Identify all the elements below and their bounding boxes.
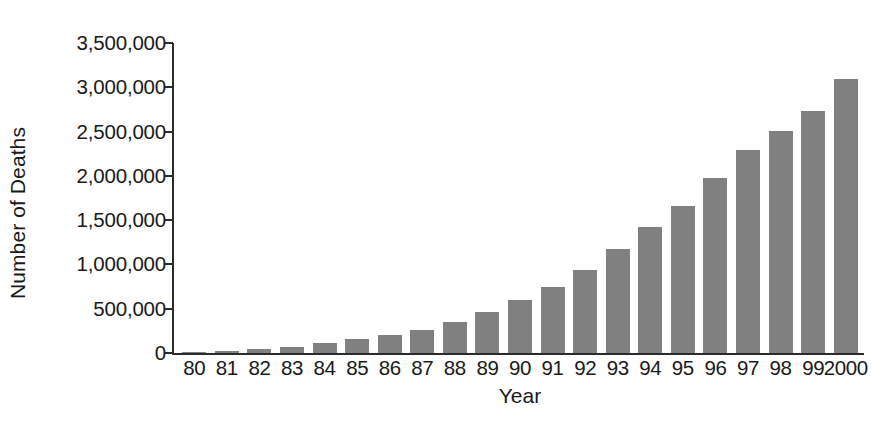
y-axis-tick-label: 2,500,000 [77, 120, 166, 144]
bar-chart: Number of Deaths 0500,0001,000,0001,500,… [0, 0, 893, 426]
y-axis-title: Number of Deaths [0, 0, 36, 426]
x-axis-tick-label: 80 [183, 356, 205, 380]
x-axis-tick-labels: 8081828384858687888990919293949596979899… [178, 356, 862, 384]
bar [671, 206, 695, 353]
x-axis-line [172, 353, 864, 355]
y-axis-tick-mark [165, 175, 173, 177]
x-axis-tick-label: 84 [314, 356, 336, 380]
y-axis-tick-label: 1,000,000 [77, 252, 166, 276]
bar [638, 227, 662, 353]
x-axis-tick-label: 94 [639, 356, 661, 380]
x-axis-tick-label: 89 [476, 356, 498, 380]
plot-area [178, 43, 862, 353]
y-axis-tick-label: 1,500,000 [77, 208, 166, 232]
y-axis-tick-mark [165, 86, 173, 88]
y-axis-tick-mark [165, 308, 173, 310]
bar [736, 150, 760, 353]
bar [703, 178, 727, 353]
x-axis-tick-label: 90 [509, 356, 531, 380]
y-axis-tick-mark [165, 219, 173, 221]
bar [606, 249, 630, 353]
y-axis-tick-mark [165, 131, 173, 133]
y-axis-tick-mark [165, 352, 173, 354]
x-axis-tick-label: 96 [704, 356, 726, 380]
y-axis-tick-label: 3,000,000 [77, 75, 166, 99]
x-axis-tick-label: 83 [281, 356, 303, 380]
bar-series [178, 43, 862, 353]
x-axis-title: Year [178, 384, 862, 408]
y-axis-tick-mark [165, 263, 173, 265]
y-axis-tick-label: 2,000,000 [77, 164, 166, 188]
y-axis-tick-labels: 0500,0001,000,0001,500,0002,000,0002,500… [34, 0, 166, 426]
bar [215, 351, 239, 353]
bar [573, 270, 597, 353]
x-axis-tick-label: 91 [542, 356, 564, 380]
x-axis-tick-label: 97 [737, 356, 759, 380]
bar [280, 347, 304, 353]
y-axis-tick-label: 3,500,000 [77, 31, 166, 55]
bar [345, 339, 369, 353]
bar [834, 79, 858, 353]
bar [247, 349, 271, 353]
bar [475, 312, 499, 353]
x-axis-tick-label: 81 [216, 356, 238, 380]
x-axis-tick-label: 88 [444, 356, 466, 380]
bar [182, 352, 206, 354]
x-axis-tick-label: 85 [346, 356, 368, 380]
y-axis-tick-mark [165, 42, 173, 44]
x-axis-tick-label: 82 [248, 356, 270, 380]
x-axis-tick-label: 2000 [824, 356, 868, 380]
bar [769, 131, 793, 353]
x-axis-tick-label: 98 [770, 356, 792, 380]
x-axis-tick-label: 99 [802, 356, 824, 380]
bar [508, 300, 532, 353]
x-axis-tick-label: 86 [379, 356, 401, 380]
x-axis-tick-label: 93 [607, 356, 629, 380]
x-axis-tick-label: 92 [574, 356, 596, 380]
bar [410, 330, 434, 353]
bar [801, 111, 825, 353]
bar [443, 322, 467, 353]
y-axis-tick-label: 500,000 [93, 297, 166, 321]
bar [541, 287, 565, 353]
bar [378, 335, 402, 353]
x-axis-tick-label: 95 [672, 356, 694, 380]
bar [313, 343, 337, 353]
x-axis-tick-label: 87 [411, 356, 433, 380]
